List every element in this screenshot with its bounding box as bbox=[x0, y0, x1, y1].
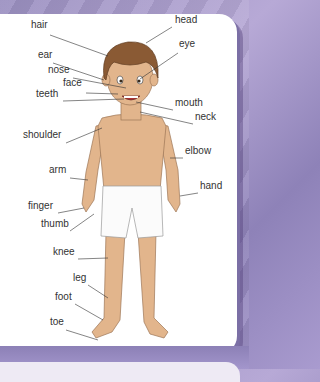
label-leg: leg bbox=[73, 273, 86, 283]
label-face: face bbox=[63, 78, 82, 88]
label-eye: eye bbox=[179, 39, 195, 49]
label-head: head bbox=[175, 15, 197, 25]
label-neck: neck bbox=[195, 112, 216, 122]
label-finger: finger bbox=[28, 201, 53, 211]
label-mouth: mouth bbox=[175, 98, 203, 108]
label-elbow: elbow bbox=[185, 146, 211, 156]
torso bbox=[98, 114, 166, 190]
label-shoulder: shoulder bbox=[23, 130, 61, 140]
label-arm: arm bbox=[49, 165, 66, 175]
label-thumb: thumb bbox=[41, 219, 69, 229]
right-ear bbox=[150, 74, 158, 86]
shorts bbox=[101, 186, 163, 238]
left-leg bbox=[92, 232, 125, 338]
label-hair: hair bbox=[31, 20, 48, 30]
label-foot: foot bbox=[55, 292, 72, 302]
label-hand: hand bbox=[200, 181, 222, 191]
right-leg bbox=[138, 232, 168, 338]
label-toe: toe bbox=[50, 317, 64, 327]
label-teeth: teeth bbox=[36, 89, 58, 99]
label-ear: ear bbox=[38, 50, 52, 60]
label-nose: nose bbox=[48, 65, 70, 75]
label-knee: knee bbox=[53, 247, 75, 257]
